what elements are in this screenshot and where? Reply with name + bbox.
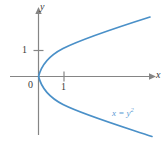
- y-axis: [34, 7, 44, 135]
- equation-exponent: 2: [131, 106, 134, 113]
- plot-canvas: [0, 0, 166, 143]
- y-axis-label: y: [40, 2, 44, 12]
- parabola-figure: y x 1 1 0 x = y2: [0, 0, 166, 143]
- y-axis-tick-label-1: 1: [22, 45, 27, 55]
- origin-label: 0: [28, 80, 33, 90]
- curve-equation-label: x = y2: [112, 107, 134, 118]
- x-axis-tick-label-1: 1: [61, 82, 66, 92]
- x-axis-arrowhead: [149, 73, 156, 79]
- x-axis-label: x: [156, 70, 160, 80]
- equation-base: x = y: [112, 108, 131, 118]
